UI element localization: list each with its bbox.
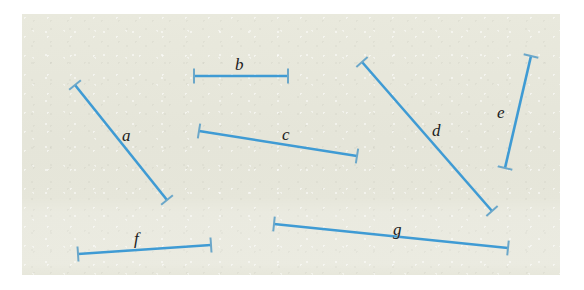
figure-root: abcdefg — [0, 0, 584, 290]
segment-label-e: e — [497, 104, 505, 121]
segment-c — [198, 124, 358, 164]
segment-tick-f-start — [77, 247, 78, 262]
segment-tick-g-start — [273, 217, 275, 232]
segment-line-a — [75, 85, 167, 200]
segment-canvas — [0, 0, 584, 290]
segment-tick-c-start — [198, 124, 200, 139]
segment-tick-c-end — [356, 149, 358, 164]
segment-tick-g-end — [507, 241, 509, 256]
segment-line-c — [199, 131, 357, 156]
segment-f — [77, 238, 211, 262]
segment-tick-f-end — [210, 238, 211, 253]
segment-label-c: c — [282, 126, 290, 143]
segment-d — [356, 57, 497, 216]
segment-g — [273, 217, 509, 256]
segment-label-a: a — [122, 127, 131, 144]
segment-line-f — [78, 245, 211, 254]
segment-label-g: g — [393, 221, 402, 238]
segment-line-g — [274, 224, 508, 248]
segment-label-d: d — [432, 122, 441, 139]
segment-line-d — [362, 62, 492, 211]
segment-label-f: f — [134, 230, 139, 247]
segment-line-e — [505, 56, 531, 168]
segment-a — [69, 80, 173, 204]
segment-label-b: b — [235, 56, 244, 73]
